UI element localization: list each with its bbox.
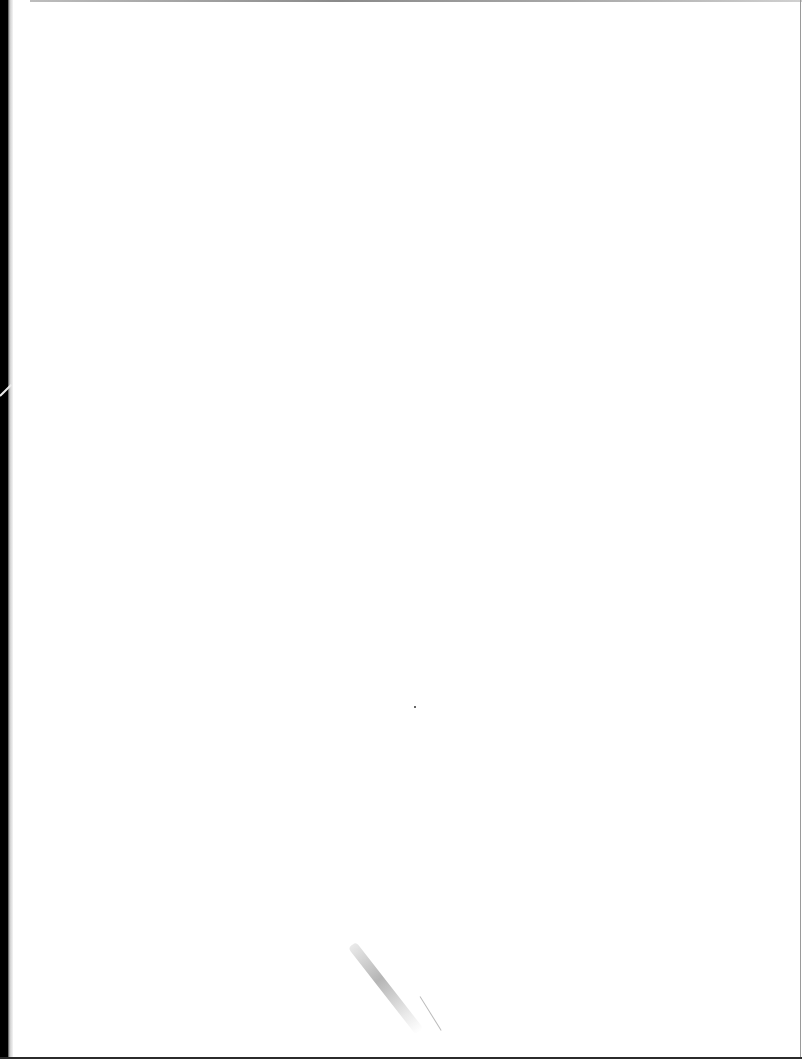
dust-speck	[414, 706, 416, 708]
top-page-edge	[30, 0, 802, 2]
binding-fray	[8, 0, 13, 1059]
right-page-edge	[800, 0, 801, 1059]
blank-scanned-page	[0, 0, 802, 1059]
pencil-stroke	[420, 996, 442, 1030]
pencil-smudge	[348, 942, 424, 1035]
